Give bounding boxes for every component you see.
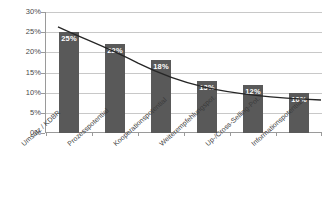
y-tick-label-20: 20% (26, 49, 41, 57)
y-tick-mark-25 (41, 32, 45, 33)
y-tick-label-15: 15% (26, 69, 41, 77)
bar-value-label: 12% (243, 88, 263, 96)
bar-umsatz-kdbr: 25% (59, 32, 79, 133)
bar-value-label: 13% (197, 84, 217, 92)
gridline-15 (46, 73, 322, 74)
y-tick-label-10: 10% (26, 89, 41, 97)
trendline-path (58, 27, 321, 100)
y-tick-label-30: 30% (26, 8, 41, 16)
y-tick-mark-5 (41, 113, 45, 114)
gridline-20 (46, 52, 322, 53)
y-tick-mark-30 (41, 12, 45, 13)
gridline-10 (46, 93, 322, 94)
x-axis-category-labels: Umsatz / KDBR Prozesspotential Kooperati… (0, 133, 336, 208)
y-tick-label-5: 5% (30, 109, 41, 117)
bar-prozesspotential: 22% (105, 44, 125, 133)
gridline-25 (46, 32, 322, 33)
bar-value-label: 25% (59, 35, 79, 43)
bar-value-label: 22% (105, 47, 125, 55)
y-tick-label-25: 25% (26, 28, 41, 36)
bar-value-label: 18% (151, 63, 171, 71)
y-tick-mark-10 (41, 93, 45, 94)
y-tick-mark-20 (41, 52, 45, 53)
y-tick-mark-15 (41, 73, 45, 74)
gridline-30 (46, 12, 322, 13)
bar-chart: 30% 25% 20% 15% 10% 5% 0% 25% (0, 0, 336, 208)
